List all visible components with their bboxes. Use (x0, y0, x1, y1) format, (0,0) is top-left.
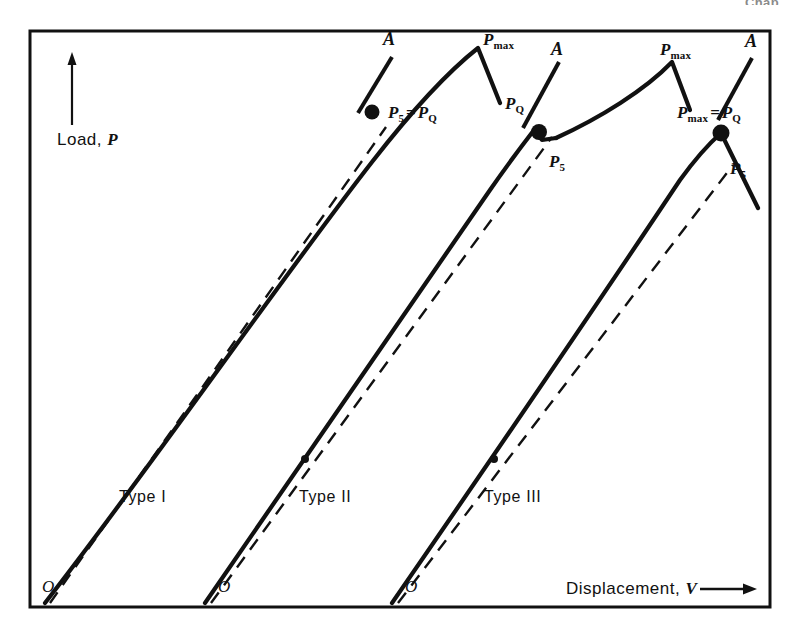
type-2-p5-label: P5 (549, 153, 565, 173)
type-3-name-label: Type III (484, 489, 541, 505)
type-2-secant-dashed (211, 137, 552, 603)
type-3-origin-label: O (405, 578, 417, 595)
type-3-pmax-pq-label: Pmax=PQ (677, 104, 741, 124)
type-1-origin-label: O (42, 578, 54, 595)
type-2-tangent-label: A (551, 40, 563, 58)
type-2-origin-label: O (218, 578, 230, 595)
figure-root: Chap (0, 0, 803, 634)
type-1-p5-point (365, 105, 380, 120)
curve-type-3 (392, 58, 758, 603)
type-3-curve (392, 133, 758, 603)
y-axis-symbol: P (107, 130, 118, 149)
type-3-tangent-label: A (745, 32, 757, 50)
x-axis-arrow (700, 584, 757, 595)
type-3-p5-label: P5 (730, 160, 746, 180)
x-axis-label: Displacement, V (566, 580, 697, 597)
type-2-name-label: Type II (299, 489, 351, 505)
type-1-tangent-line (358, 57, 392, 113)
type-1-p5-pq-label: P5=PQ (388, 104, 437, 124)
type-2-pq-label: PQ (505, 95, 524, 115)
type-3-secant-dashed (398, 165, 733, 603)
type-1-tangent-label: A (383, 30, 395, 48)
x-axis-symbol: V (685, 579, 697, 598)
type-2-popin-point (531, 124, 547, 140)
type-3-fracture-point (713, 125, 730, 142)
type-2-lower-marker (301, 455, 309, 463)
type-2-curve-upper (556, 62, 690, 138)
type-2-curve-lower (205, 130, 534, 603)
load-displacement-figure (0, 0, 803, 634)
type-1-pmax-label: Pmax (483, 31, 514, 51)
type-2-pmax-label: Pmax (660, 41, 691, 61)
type-1-name-label: Type I (119, 489, 166, 505)
y-axis-arrow (68, 52, 77, 125)
type-3-lower-marker (490, 455, 498, 463)
y-axis-label: Load, P (57, 131, 118, 148)
type-2-tangent-line (523, 62, 559, 128)
